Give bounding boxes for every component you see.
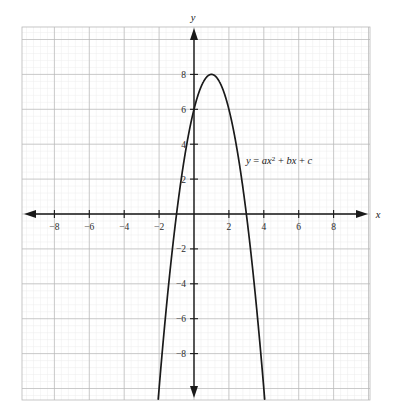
equation-plus-one: + — [275, 155, 286, 166]
y-tick-label: −4 — [176, 279, 186, 289]
y-axis-label: y — [190, 12, 196, 23]
x-tick-label: −4 — [119, 222, 129, 232]
y-tick-label: −8 — [176, 349, 186, 359]
y-tick-label: 6 — [181, 105, 186, 115]
x-tick-label: −6 — [84, 222, 94, 232]
y-tick-label: −6 — [176, 314, 186, 324]
y-tick-label: −2 — [176, 244, 186, 254]
equation-constant-c: c — [308, 155, 313, 166]
x-tick-label: 4 — [261, 222, 266, 232]
x-tick-label: −2 — [154, 222, 164, 232]
x-axis-label: x — [375, 209, 381, 220]
x-tick-label: 2 — [227, 222, 232, 232]
x-tick-label: 6 — [296, 222, 301, 232]
equation-plus-two: + — [296, 155, 307, 166]
coordinate-plane-svg: −8−6−4−22468 8642−2−4−6−8 x y y = ax2 + … — [0, 0, 395, 415]
y-tick-label: 8 — [181, 70, 186, 80]
x-tick-label: −8 — [49, 222, 59, 232]
equation-annotation: y = ax2 + bx + c — [245, 155, 313, 167]
x-tick-label: 8 — [331, 222, 336, 232]
equation-equals: = — [251, 155, 262, 166]
graph-figure: −8−6−4−22468 8642−2−4−6−8 x y y = ax2 + … — [0, 0, 395, 415]
